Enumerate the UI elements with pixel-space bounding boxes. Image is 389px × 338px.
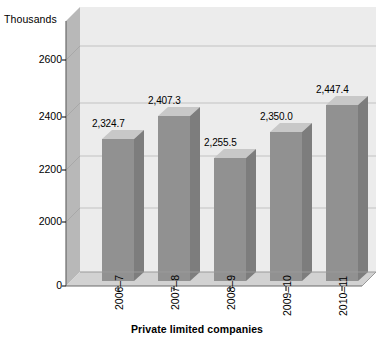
bar-group-1	[158, 107, 200, 281]
category-label-3: 2009–10	[281, 275, 293, 316]
unit-label: Thousands	[4, 13, 57, 25]
value-label-3: 2,350.0	[260, 111, 293, 122]
category-label-2: 2008–9	[225, 275, 237, 310]
bar-front-1	[158, 116, 190, 281]
bar-side-1	[190, 107, 200, 281]
bar-front-3	[270, 132, 302, 281]
ytick-label: 0	[56, 279, 62, 291]
value-label-4: 2,447.4	[316, 84, 349, 95]
bar-group-4	[326, 96, 368, 281]
value-label-0: 2,324.7	[92, 118, 125, 129]
bar-group-0	[102, 130, 144, 281]
x-axis-title: Private limited companies	[131, 323, 263, 335]
bar-chart: Thousands 2600 2400 2200 2000 0 2,324.7 …	[0, 0, 389, 338]
category-label-1: 2007–8	[169, 275, 181, 310]
category-label-0: 2006–7	[113, 275, 125, 310]
bar-side-4	[358, 96, 368, 281]
bar-front-0	[102, 139, 134, 281]
left-wall	[66, 7, 80, 286]
bar-side-0	[134, 130, 144, 281]
value-label-1: 2,407.3	[148, 95, 181, 106]
ytick-label: 2200	[39, 163, 62, 175]
bar-front-4	[326, 105, 358, 281]
bar-side-3	[302, 123, 312, 281]
bar-side-2	[246, 149, 256, 281]
ytick-label: 2600	[39, 53, 62, 65]
value-label-2: 2,255.5	[204, 137, 237, 148]
ytick-label: 2000	[39, 215, 62, 227]
category-label-4: 2010–11	[337, 276, 349, 316]
bar-group-2	[214, 149, 256, 281]
bar-group-3	[270, 123, 312, 281]
ytick-label: 2400	[39, 110, 62, 122]
bar-front-2	[214, 158, 246, 281]
